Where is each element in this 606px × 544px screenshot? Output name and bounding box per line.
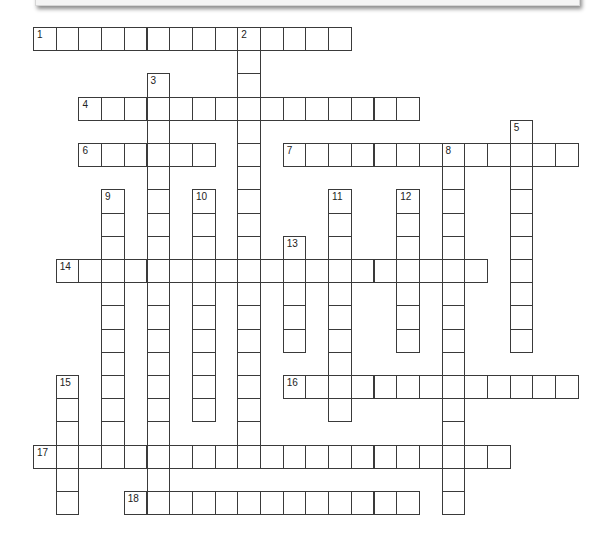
crossword-cell[interactable]: [396, 329, 420, 353]
crossword-cell[interactable]: [147, 445, 171, 469]
crossword-cell[interactable]: [396, 213, 420, 237]
crossword-cell[interactable]: [147, 352, 171, 376]
crossword-cell[interactable]: [442, 398, 466, 422]
crossword-cell[interactable]: [328, 97, 352, 121]
crossword-cell[interactable]: [237, 259, 261, 283]
crossword-cell[interactable]: [124, 445, 148, 469]
crossword-cell[interactable]: [147, 305, 171, 329]
crossword-cell[interactable]: [192, 398, 216, 422]
crossword-cell[interactable]: [147, 236, 171, 260]
crossword-cell[interactable]: [101, 329, 125, 353]
crossword-cell[interactable]: [101, 282, 125, 306]
crossword-cell[interactable]: [442, 259, 466, 283]
crossword-cell[interactable]: [305, 97, 329, 121]
crossword-cell[interactable]: [124, 27, 148, 51]
crossword-cell[interactable]: [374, 143, 398, 167]
crossword-cell[interactable]: [283, 282, 307, 306]
crossword-cell[interactable]: [147, 259, 171, 283]
crossword-cell[interactable]: [147, 166, 171, 190]
crossword-cell[interactable]: [419, 143, 443, 167]
crossword-cell[interactable]: [260, 491, 284, 515]
crossword-cell[interactable]: [283, 445, 307, 469]
crossword-cell[interactable]: 15: [56, 375, 80, 399]
crossword-cell[interactable]: [532, 375, 556, 399]
crossword-cell[interactable]: [305, 143, 329, 167]
crossword-cell[interactable]: 2: [237, 27, 261, 51]
crossword-cell[interactable]: [510, 166, 534, 190]
crossword-cell[interactable]: [396, 305, 420, 329]
crossword-cell[interactable]: [442, 166, 466, 190]
crossword-cell[interactable]: 10: [192, 189, 216, 213]
crossword-cell[interactable]: [283, 305, 307, 329]
crossword-cell[interactable]: [305, 259, 329, 283]
crossword-cell[interactable]: [351, 445, 375, 469]
crossword-cell[interactable]: [237, 491, 261, 515]
crossword-cell[interactable]: [532, 143, 556, 167]
crossword-cell[interactable]: [283, 27, 307, 51]
crossword-cell[interactable]: [351, 143, 375, 167]
crossword-cell[interactable]: [56, 445, 80, 469]
crossword-cell[interactable]: [215, 97, 239, 121]
crossword-cell[interactable]: [101, 305, 125, 329]
crossword-cell[interactable]: [101, 27, 125, 51]
crossword-cell[interactable]: [328, 282, 352, 306]
crossword-cell[interactable]: [328, 398, 352, 422]
crossword-cell[interactable]: [169, 27, 193, 51]
crossword-cell[interactable]: [101, 236, 125, 260]
crossword-cell[interactable]: [396, 445, 420, 469]
crossword-cell[interactable]: [237, 50, 261, 74]
crossword-cell[interactable]: [147, 282, 171, 306]
crossword-cell[interactable]: [56, 491, 80, 515]
crossword-cell[interactable]: [192, 375, 216, 399]
crossword-cell[interactable]: 9: [101, 189, 125, 213]
crossword-cell[interactable]: 13: [283, 236, 307, 260]
crossword-cell[interactable]: [78, 259, 102, 283]
crossword-cell[interactable]: [192, 143, 216, 167]
crossword-cell[interactable]: [215, 491, 239, 515]
crossword-cell[interactable]: [464, 445, 488, 469]
crossword-cell[interactable]: [510, 189, 534, 213]
crossword-cell[interactable]: [510, 375, 534, 399]
crossword-cell[interactable]: [101, 143, 125, 167]
crossword-cell[interactable]: [487, 445, 511, 469]
crossword-cell[interactable]: [147, 421, 171, 445]
crossword-cell[interactable]: [328, 352, 352, 376]
crossword-cell[interactable]: [442, 421, 466, 445]
crossword-cell[interactable]: [305, 491, 329, 515]
crossword-cell[interactable]: [147, 120, 171, 144]
crossword-cell[interactable]: [442, 445, 466, 469]
crossword-cell[interactable]: [124, 259, 148, 283]
crossword-cell[interactable]: [283, 491, 307, 515]
crossword-cell[interactable]: [442, 375, 466, 399]
crossword-cell[interactable]: [169, 143, 193, 167]
crossword-cell[interactable]: [351, 97, 375, 121]
crossword-cell[interactable]: [260, 259, 284, 283]
crossword-cell[interactable]: [237, 398, 261, 422]
crossword-cell[interactable]: [305, 27, 329, 51]
crossword-cell[interactable]: 12: [396, 189, 420, 213]
crossword-cell[interactable]: [215, 27, 239, 51]
crossword-cell[interactable]: [192, 352, 216, 376]
crossword-cell[interactable]: [124, 97, 148, 121]
crossword-cell[interactable]: [396, 491, 420, 515]
crossword-cell[interactable]: [351, 491, 375, 515]
crossword-cell[interactable]: 16: [283, 375, 307, 399]
crossword-cell[interactable]: [101, 213, 125, 237]
crossword-cell[interactable]: [510, 282, 534, 306]
crossword-cell[interactable]: [147, 27, 171, 51]
crossword-cell[interactable]: [169, 445, 193, 469]
crossword-cell[interactable]: [237, 236, 261, 260]
crossword-cell[interactable]: [305, 375, 329, 399]
crossword-cell[interactable]: [147, 143, 171, 167]
crossword-cell[interactable]: [328, 375, 352, 399]
crossword-cell[interactable]: [101, 352, 125, 376]
crossword-cell[interactable]: [237, 213, 261, 237]
crossword-cell[interactable]: [328, 259, 352, 283]
crossword-cell[interactable]: [374, 491, 398, 515]
crossword-cell[interactable]: [442, 236, 466, 260]
crossword-cell[interactable]: [396, 97, 420, 121]
crossword-cell[interactable]: [237, 143, 261, 167]
crossword-cell[interactable]: [328, 491, 352, 515]
crossword-cell[interactable]: [56, 27, 80, 51]
crossword-cell[interactable]: [510, 143, 534, 167]
